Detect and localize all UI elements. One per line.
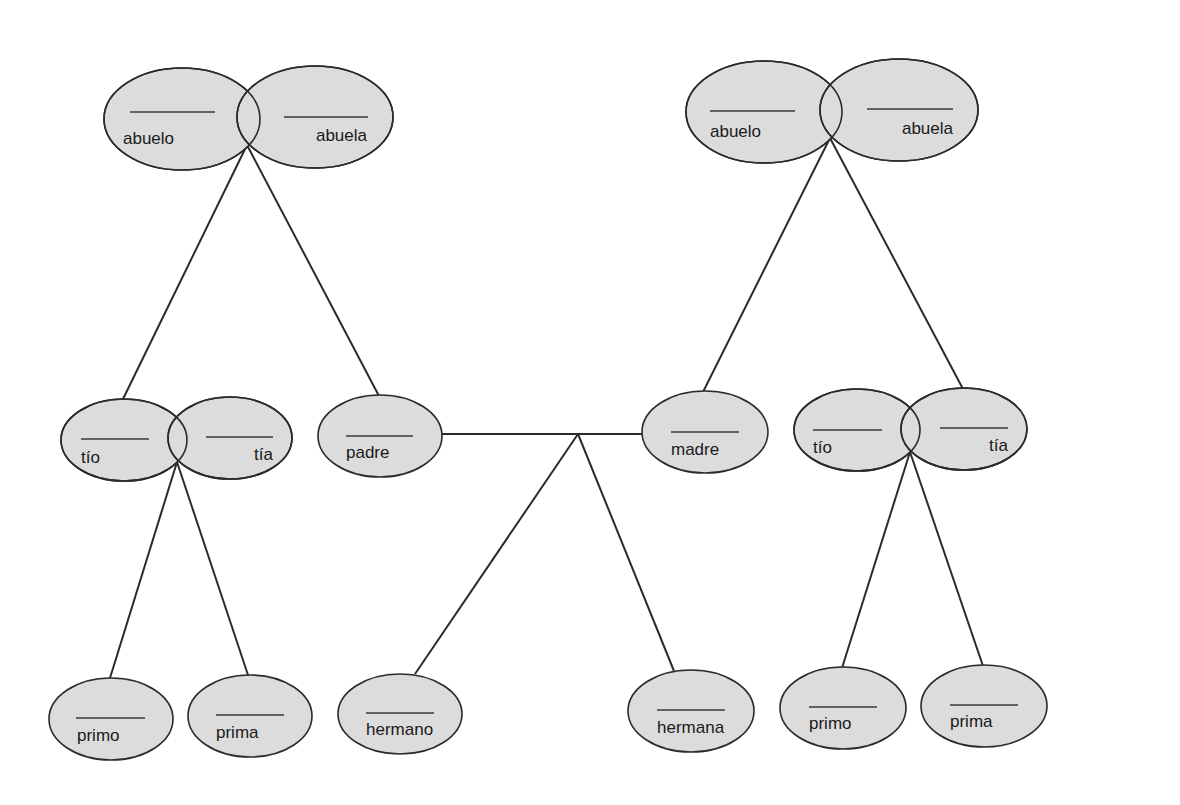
node-label: primo bbox=[809, 714, 852, 733]
node-label: madre bbox=[671, 440, 719, 459]
node-label: abuela bbox=[902, 119, 954, 138]
connector-abuelos_mat-tia_mat bbox=[830, 138, 963, 389]
node-hermana: hermana bbox=[628, 670, 754, 752]
node-ellipse bbox=[628, 670, 754, 752]
node-ellipse bbox=[780, 667, 906, 749]
connector-tios_pat-prima_pat bbox=[177, 462, 248, 675]
node-label: padre bbox=[346, 443, 389, 462]
node-ellipse bbox=[49, 678, 173, 760]
node-label: tío bbox=[813, 438, 832, 457]
node-prima-pat: prima bbox=[188, 675, 312, 757]
node-ellipse bbox=[338, 674, 462, 754]
family-member-nodes: abueloabuelaabueloabuelatíotíapadremadre… bbox=[49, 59, 1047, 760]
node-label: abuelo bbox=[710, 122, 761, 141]
node-label: tía bbox=[254, 445, 273, 464]
connector-abuelos_pat-padre bbox=[247, 145, 379, 396]
connector-abuelos_pat-tio_pat bbox=[123, 145, 247, 399]
node-hermano: hermano bbox=[338, 674, 462, 754]
node-primo-mat: primo bbox=[780, 667, 906, 749]
connector-tios_mat-prima_mat bbox=[910, 452, 983, 666]
node-prima-mat: prima bbox=[921, 665, 1047, 747]
node-label: prima bbox=[216, 723, 259, 742]
node-label: abuela bbox=[316, 126, 368, 145]
family-tree-diagram: abueloabuelaabueloabuelatíotíapadremadre… bbox=[0, 0, 1180, 805]
node-primo-pat: primo bbox=[49, 678, 173, 760]
node-label: primo bbox=[77, 726, 120, 745]
node-label: hermana bbox=[657, 718, 725, 737]
node-padre: padre bbox=[318, 395, 442, 477]
node-ellipse bbox=[921, 665, 1047, 747]
node-ellipse bbox=[188, 675, 312, 757]
node-label: hermano bbox=[366, 720, 433, 739]
node-label: tía bbox=[989, 436, 1008, 455]
connector-tios_mat-primo_mat bbox=[842, 452, 910, 668]
connector-padres-hermano bbox=[415, 434, 578, 674]
node-label: tío bbox=[81, 448, 100, 467]
connector-padres-hermana bbox=[578, 434, 674, 671]
node-madre: madre bbox=[642, 391, 768, 473]
node-label: abuelo bbox=[123, 129, 174, 148]
connector-tios_pat-primo_pat bbox=[110, 462, 177, 678]
node-label: prima bbox=[950, 712, 993, 731]
connector-abuelos_mat-madre bbox=[703, 138, 830, 392]
